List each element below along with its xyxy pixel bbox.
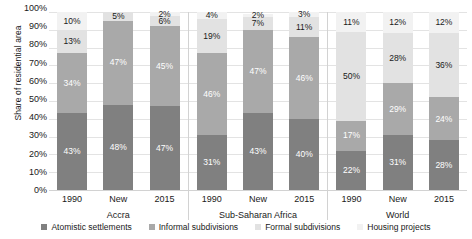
y-axis-tick-90: 90% bbox=[29, 22, 47, 31]
bar-segment[interactable]: 34% bbox=[57, 53, 87, 114]
bar-segment[interactable]: 11% bbox=[289, 17, 319, 37]
bar-segment[interactable]: 47% bbox=[150, 106, 180, 190]
x-axis-tick-2015: 2015 bbox=[423, 190, 465, 204]
bar-segment-label: 45% bbox=[156, 62, 173, 71]
legend-swatch-icon bbox=[149, 224, 155, 230]
bar-segment-label: 47% bbox=[156, 144, 173, 153]
bar-segment[interactable]: 40% bbox=[289, 119, 319, 190]
bar-segment-label: 29% bbox=[389, 105, 406, 114]
x-axis-tick-new: New bbox=[237, 190, 279, 204]
bar-segment[interactable]: 13% bbox=[57, 30, 87, 53]
bar-segment[interactable]: 3% bbox=[289, 12, 319, 17]
x-axis-group-label: Sub-Saharan Africa bbox=[189, 204, 328, 220]
bar-segment-label: 47% bbox=[110, 58, 127, 67]
bar-segment[interactable]: 12% bbox=[429, 12, 459, 33]
bar-segment[interactable]: 45% bbox=[150, 26, 180, 106]
bar-segment-label: 48% bbox=[110, 143, 127, 152]
bar-segment-label: 36% bbox=[435, 61, 452, 70]
bar-1990[interactable]: 31%46%19%4% bbox=[197, 12, 227, 190]
bar-segment-label: 47% bbox=[249, 67, 266, 76]
legend-swatch-icon bbox=[357, 224, 363, 230]
x-axis-group-world: 1990New2015World bbox=[327, 190, 467, 220]
x-axis-tick-1990: 1990 bbox=[51, 190, 93, 204]
bar-segment[interactable]: 4% bbox=[197, 12, 227, 19]
legend: Atomistic settlementsInformal subdivisio… bbox=[0, 222, 472, 232]
bar-segment-label: 31% bbox=[389, 158, 406, 167]
bar-segment[interactable]: 50% bbox=[336, 32, 366, 121]
bar-segment-label: 40% bbox=[296, 150, 313, 159]
bar-segment[interactable]: 24% bbox=[429, 97, 459, 140]
legend-swatch-icon bbox=[41, 224, 47, 230]
bar-segment-label: 22% bbox=[343, 166, 360, 175]
legend-label: Informal subdivisions bbox=[159, 222, 238, 232]
bar-segment-label: 4% bbox=[206, 11, 218, 20]
bar-2015[interactable]: 47%45%6%2% bbox=[150, 12, 180, 190]
bar-new[interactable]: 43%47%7%2% bbox=[243, 12, 273, 190]
legend-label: Housing projects bbox=[367, 222, 430, 232]
bar-segment[interactable]: 31% bbox=[383, 135, 413, 190]
x-axis-tick-2015: 2015 bbox=[144, 190, 186, 204]
legend-item-informal-subdivisions[interactable]: Informal subdivisions bbox=[149, 222, 238, 232]
bar-segment[interactable]: 17% bbox=[336, 121, 366, 151]
x-axis-category-ticks: 1990New2015 bbox=[49, 190, 188, 204]
bar-segment-label: 17% bbox=[343, 131, 360, 140]
bar-segment-label: 28% bbox=[435, 161, 452, 170]
bar-new[interactable]: 48%47%5% bbox=[103, 12, 133, 190]
bar-segment[interactable]: 36% bbox=[429, 33, 459, 97]
bar-segment[interactable]: 47% bbox=[103, 21, 133, 105]
bar-segment[interactable]: 28% bbox=[383, 33, 413, 83]
bar-segment[interactable]: 5% bbox=[103, 12, 133, 21]
bar-segment[interactable]: 28% bbox=[429, 140, 459, 190]
bar-segment-label: 10% bbox=[64, 17, 81, 26]
x-axis-groups: 1990New2015Accra1990New2015Sub-Saharan A… bbox=[49, 190, 467, 220]
bar-segment[interactable]: 48% bbox=[103, 105, 133, 190]
x-axis-tick-1990: 1990 bbox=[330, 190, 372, 204]
y-axis-tick-20: 20% bbox=[29, 150, 47, 159]
x-axis-tick-1990: 1990 bbox=[191, 190, 233, 204]
y-axis-tick-30: 30% bbox=[29, 131, 47, 140]
y-axis-tick-0: 0% bbox=[34, 186, 47, 195]
bar-segment[interactable]: 12% bbox=[383, 12, 413, 33]
bar-segment-label: 19% bbox=[203, 32, 220, 41]
y-axis-tick-50: 50% bbox=[29, 95, 47, 104]
bar-segment-label: 31% bbox=[203, 158, 220, 167]
bar-segment[interactable]: 19% bbox=[197, 19, 227, 53]
bar-segment[interactable]: 43% bbox=[243, 113, 273, 190]
bar-segment[interactable]: 7% bbox=[243, 17, 273, 29]
bar-2015[interactable]: 28%24%36%12% bbox=[429, 12, 459, 190]
bar-segment[interactable]: 43% bbox=[57, 113, 87, 190]
bar-1990[interactable]: 22%17%50%11% bbox=[336, 12, 366, 190]
bar-new[interactable]: 31%29%28%12% bbox=[383, 12, 413, 190]
legend-item-atomistic-settlements[interactable]: Atomistic settlements bbox=[41, 222, 131, 232]
y-axis-tick-80: 80% bbox=[29, 40, 47, 49]
bar-segment[interactable]: 2% bbox=[150, 12, 180, 16]
bar-segment[interactable]: 10% bbox=[57, 12, 87, 30]
x-axis-category-ticks: 1990New2015 bbox=[328, 190, 467, 204]
bar-segment[interactable]: 46% bbox=[197, 53, 227, 135]
bar-segment-label: 43% bbox=[249, 147, 266, 156]
bar-2015[interactable]: 40%46%11%3% bbox=[289, 12, 319, 190]
bar-segment[interactable]: 31% bbox=[197, 135, 227, 190]
bar-segment-label: 46% bbox=[203, 90, 220, 99]
legend-item-housing-projects[interactable]: Housing projects bbox=[357, 222, 430, 232]
legend-item-formal-subdivisions[interactable]: Formal subdivisions bbox=[255, 222, 340, 232]
bar-segment-label: 11% bbox=[343, 18, 359, 27]
bar-segment[interactable]: 47% bbox=[243, 30, 273, 114]
bar-segment[interactable]: 46% bbox=[289, 37, 319, 119]
bar-segment[interactable]: 22% bbox=[336, 151, 366, 190]
bar-segment-label: 34% bbox=[64, 79, 81, 88]
legend-swatch-icon bbox=[255, 224, 261, 230]
x-axis-group-label: World bbox=[328, 204, 467, 220]
y-axis-tick-60: 60% bbox=[29, 77, 47, 86]
bar-segment[interactable]: 2% bbox=[243, 14, 273, 18]
bar-segment-label: 50% bbox=[343, 72, 360, 81]
bar-segment-label: 46% bbox=[296, 74, 313, 83]
bar-segment-label: 11% bbox=[296, 23, 312, 32]
bar-segment[interactable]: 29% bbox=[383, 83, 413, 135]
bar-group-accra: 43%34%13%10%48%47%5%47%45%6%2% bbox=[49, 12, 188, 190]
bar-segment-label: 5% bbox=[112, 12, 124, 21]
bar-1990[interactable]: 43%34%13%10% bbox=[57, 12, 87, 190]
bar-segment[interactable]: 11% bbox=[336, 12, 366, 32]
bar-segment[interactable]: 6% bbox=[150, 16, 180, 27]
bar-segment-label: 7% bbox=[252, 19, 264, 28]
